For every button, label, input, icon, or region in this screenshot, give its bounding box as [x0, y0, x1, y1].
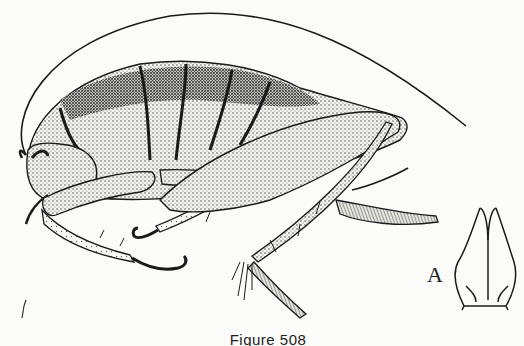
- front-leg-tarsus: [132, 256, 186, 269]
- inset-label: A: [427, 262, 443, 288]
- insect-illustration: [0, 0, 524, 346]
- inset-a-plate: [455, 208, 515, 310]
- figure-caption: Figure 508: [0, 331, 524, 346]
- ovipositor: [336, 200, 438, 224]
- figure-page: A Figure 508: [0, 0, 524, 346]
- middle-leg-tarsus: [133, 228, 158, 238]
- front-leg-tibia: [42, 210, 134, 262]
- hind-leg-tarsus: [248, 262, 306, 318]
- leg-spines: [100, 202, 320, 300]
